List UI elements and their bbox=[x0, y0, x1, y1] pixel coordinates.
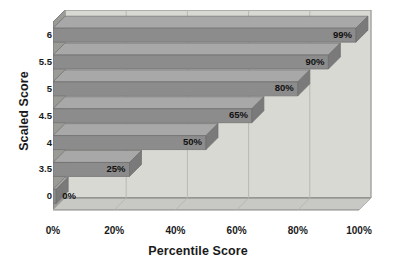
bar-value-label: 90% bbox=[280, 56, 324, 67]
y-tick-label: 5 bbox=[12, 83, 52, 94]
bar-value-label: 99% bbox=[308, 29, 352, 40]
x-tick-label: 80% bbox=[275, 225, 321, 236]
y-tick-label: 6 bbox=[12, 29, 52, 40]
bar-chart: Scaled Score Percentile Score 65.554.543… bbox=[0, 0, 396, 267]
x-axis-title: Percentile Score bbox=[0, 244, 396, 258]
y-tick-label: 3.5 bbox=[12, 163, 52, 174]
bar-value-label: 80% bbox=[250, 82, 294, 93]
bar-value-label: 25% bbox=[82, 163, 126, 174]
bar-value-label: 50% bbox=[158, 136, 202, 147]
y-tick-label: 4 bbox=[12, 137, 52, 148]
bar-value-label: 65% bbox=[204, 109, 248, 120]
y-tick-label: 5.5 bbox=[12, 56, 52, 67]
x-tick-label: 100% bbox=[336, 225, 382, 236]
x-tick-label: 60% bbox=[214, 225, 260, 236]
x-tick-label: 0% bbox=[30, 225, 76, 236]
x-tick-label: 40% bbox=[152, 225, 198, 236]
y-tick-label: 0 bbox=[12, 190, 52, 201]
plot-area: 0%25%50%65%80%90%99% bbox=[53, 10, 383, 222]
bar-value-label: 0% bbox=[62, 190, 76, 201]
y-tick-label: 4.5 bbox=[12, 110, 52, 121]
x-tick-label: 20% bbox=[91, 225, 137, 236]
